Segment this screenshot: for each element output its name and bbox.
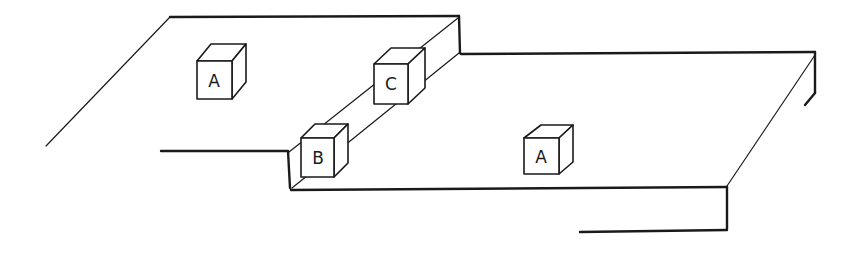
block-label: C xyxy=(385,74,397,94)
platform-diagram: A C B A xyxy=(0,0,854,253)
block-c: C xyxy=(374,48,425,104)
block-label: A xyxy=(208,71,220,91)
block-label: A xyxy=(535,147,547,167)
block-label: B xyxy=(312,148,324,168)
block-a-lower: A xyxy=(524,125,573,174)
block-b: B xyxy=(301,124,348,177)
block-a-upper: A xyxy=(197,44,246,99)
